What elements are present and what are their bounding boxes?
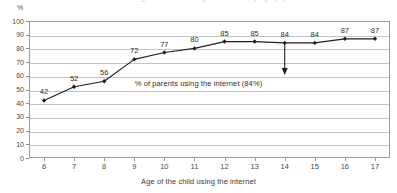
data-point-label: 85 <box>212 30 238 38</box>
data-point-marker <box>162 50 166 54</box>
data-point-marker <box>252 39 256 43</box>
data-point-label: 84 <box>302 31 328 39</box>
data-point-marker <box>373 37 377 41</box>
data-point-marker <box>222 39 226 43</box>
annotation-arrow-icon <box>282 43 288 75</box>
data-point-label: 87 <box>362 27 388 35</box>
chart-container: Percentage of children using the interne… <box>0 0 397 193</box>
annotation-text: % of parents using the internet (84%) <box>0 79 397 88</box>
data-point-label: 87 <box>332 27 358 35</box>
data-point-marker <box>42 98 46 102</box>
data-point-marker <box>192 46 196 50</box>
data-point-marker <box>313 41 317 45</box>
data-point-marker <box>343 37 347 41</box>
data-point-label: 77 <box>151 41 177 49</box>
data-point-label: 56 <box>91 69 117 77</box>
data-point-label: 84 <box>272 31 298 39</box>
data-point-label: 42 <box>31 88 57 96</box>
data-point-label: 72 <box>121 47 147 55</box>
data-point-label: 80 <box>181 36 207 44</box>
data-point-label: 85 <box>242 30 268 38</box>
